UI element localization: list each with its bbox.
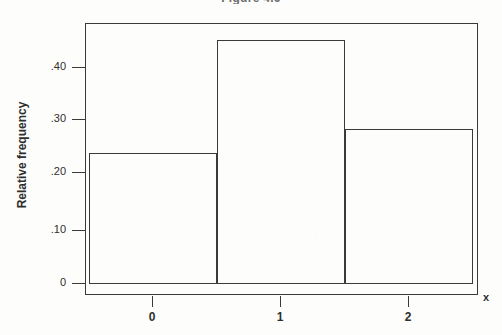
- histogram-bar-1: [217, 40, 345, 284]
- figure-title: Figure 4.6: [0, 0, 502, 4]
- y-tick-label-020: .20: [26, 165, 66, 177]
- y-tick-mark-020: [72, 172, 85, 173]
- y-tick-label-030: .30: [26, 112, 66, 124]
- x-axis-title: x: [483, 291, 489, 303]
- x-tick-label-0: 0: [132, 310, 172, 324]
- y-tick-label-010: .10: [26, 223, 66, 235]
- y-tick-mark-010: [72, 230, 85, 231]
- y-tick-label-0: 0: [26, 276, 66, 288]
- histogram-bar-2: [345, 129, 473, 284]
- x-tick-mark-2: [408, 296, 409, 307]
- histogram-bar-0: [89, 153, 217, 284]
- x-tick-label-1: 1: [260, 310, 300, 324]
- y-axis-title: Relative frequency: [15, 90, 29, 220]
- y-tick-mark-040: [72, 67, 85, 68]
- y-tick-mark-030: [72, 119, 85, 120]
- x-tick-mark-0: [152, 296, 153, 307]
- x-tick-mark-1: [280, 296, 281, 307]
- plot-area: [85, 23, 478, 295]
- x-tick-label-2: 2: [388, 310, 428, 324]
- figure-container: Figure 4.6 Relative frequency x .40 .30 …: [0, 0, 502, 335]
- y-tick-label-040: .40: [26, 60, 66, 72]
- y-tick-mark-0: [72, 283, 85, 284]
